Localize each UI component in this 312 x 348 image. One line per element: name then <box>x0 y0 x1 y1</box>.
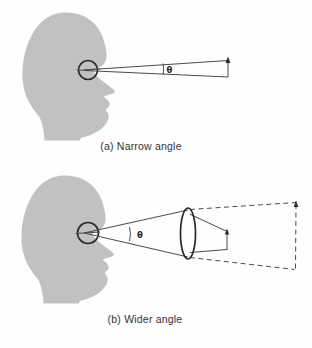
caption-b: (b) Wider angle <box>108 313 183 325</box>
object-arrowhead-a <box>226 57 231 64</box>
theta-label-a: θ <box>167 65 173 75</box>
panel-a-narrow-angle: θ (a) Narrow angle <box>22 13 230 152</box>
angle-arc-b <box>130 227 131 241</box>
sight-ray-bottom-a <box>84 71 228 78</box>
head-silhouette-b <box>21 176 114 304</box>
sight-ray-top-a <box>84 61 228 71</box>
panel-b-wider-angle: θ (b) Wider angle <box>21 176 298 325</box>
virtual-image-arrow-shaft-b <box>296 204 297 270</box>
angle-arc-a <box>163 64 164 75</box>
caption-a: (a) Narrow angle <box>100 140 181 152</box>
head-silhouette-a <box>22 13 115 141</box>
visual-angle-diagram: θ (a) Narrow angle θ <box>0 0 312 348</box>
object-arrowhead-b <box>225 229 229 235</box>
converging-ray-bottom-b <box>190 250 227 253</box>
virtual-ray-top-b <box>190 203 296 210</box>
figure-page: θ (a) Narrow angle θ <box>0 0 312 348</box>
virtual-image-arrowhead-b <box>294 201 299 208</box>
lens-icon <box>181 208 196 259</box>
theta-label-b: θ <box>137 230 143 240</box>
virtual-ray-bottom-b <box>190 258 295 270</box>
